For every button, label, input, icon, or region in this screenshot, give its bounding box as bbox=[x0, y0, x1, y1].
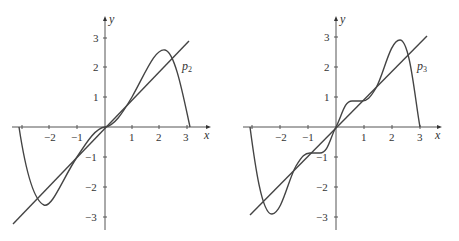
y-tick-label: 2 bbox=[93, 61, 99, 73]
figure: −2 −1 1 2 3 3 2 1 −1 −2 −3 x y p2 bbox=[0, 0, 459, 241]
x-tick-label: 1 bbox=[361, 131, 367, 143]
curve-label-p3: p3 bbox=[416, 59, 427, 74]
x-tick-label: −1 bbox=[302, 131, 314, 143]
y-tick-label: −2 bbox=[316, 181, 328, 193]
y-axis-label: y bbox=[339, 12, 346, 26]
x-axis-label: x bbox=[203, 128, 210, 142]
x-tick-label: 2 bbox=[156, 131, 162, 143]
y-tick-label: −1 bbox=[85, 151, 97, 163]
y-axis-label: y bbox=[108, 12, 115, 26]
chart-p3: −2 −1 1 2 3 3 2 1 −1 −2 −3 x y p3 bbox=[243, 12, 442, 230]
x-tick-label: −1 bbox=[71, 131, 83, 143]
x-axis-label: x bbox=[434, 128, 441, 142]
line-y-equals-x bbox=[250, 36, 427, 215]
y-tick-label: 2 bbox=[324, 61, 330, 73]
y-tick-label: 3 bbox=[324, 31, 330, 43]
y-axis-arrow-icon bbox=[334, 16, 338, 21]
y-tick-label: 1 bbox=[324, 91, 330, 103]
y-tick-label: 1 bbox=[93, 91, 99, 103]
y-tick-label: −3 bbox=[316, 211, 328, 223]
curve-label-p2: p2 bbox=[181, 59, 192, 74]
y-axis-arrow-icon bbox=[103, 16, 107, 21]
y-tick-label: −3 bbox=[85, 211, 97, 223]
line-y-equals-x bbox=[13, 41, 189, 224]
x-tick-label: −2 bbox=[44, 131, 56, 143]
x-tick-label: 3 bbox=[183, 131, 189, 143]
x-tick-label: 1 bbox=[129, 131, 135, 143]
y-tick-label: 3 bbox=[93, 32, 99, 44]
y-tick-label: −2 bbox=[85, 181, 97, 193]
x-tick-label: −2 bbox=[275, 131, 287, 143]
chart-p2: −2 −1 1 2 3 3 2 1 −1 −2 −3 x y p2 bbox=[12, 12, 211, 230]
x-tick-label: 3 bbox=[417, 131, 423, 143]
x-tick-label: 2 bbox=[389, 131, 395, 143]
